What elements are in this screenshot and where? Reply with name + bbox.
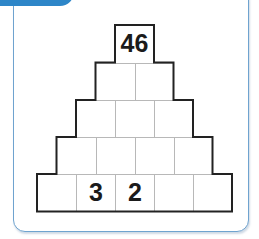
pyramid-outline [0, 0, 259, 239]
